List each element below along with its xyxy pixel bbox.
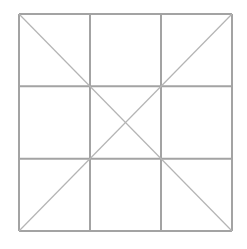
diagonal-lines bbox=[19, 14, 232, 231]
grid-diagram bbox=[0, 0, 247, 249]
